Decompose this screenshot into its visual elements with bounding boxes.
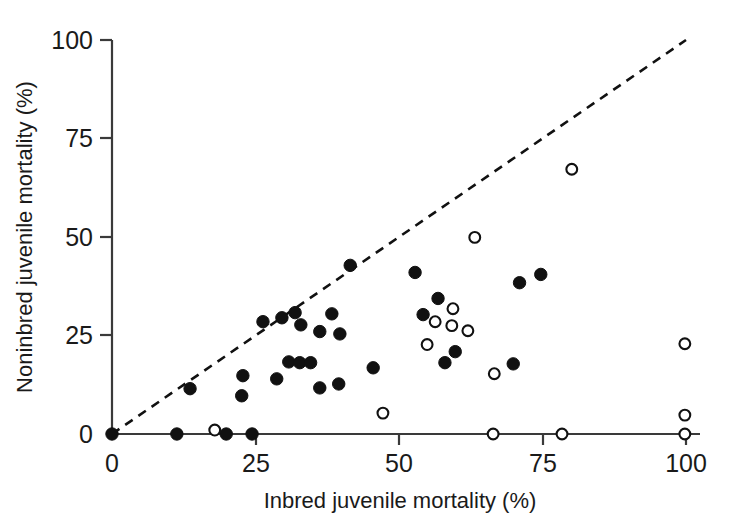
y-tick-label-50: 50	[65, 223, 93, 251]
data-point-open	[566, 164, 577, 175]
x-tick-label-75: 75	[529, 449, 557, 477]
data-point-open	[378, 408, 389, 419]
data-point-open	[469, 232, 480, 243]
data-point-filled	[304, 356, 316, 368]
series-open-circles	[209, 164, 690, 440]
data-point-filled	[513, 277, 525, 289]
data-point-open	[679, 429, 690, 440]
data-point-filled	[334, 328, 346, 340]
data-point-open	[446, 320, 457, 331]
data-point-open	[448, 303, 459, 314]
x-tick-marks	[256, 434, 686, 445]
data-point-filled	[184, 382, 196, 394]
data-point-filled	[257, 316, 269, 328]
data-point-filled	[507, 358, 519, 370]
data-point-filled	[367, 362, 379, 374]
data-point-filled	[314, 382, 326, 394]
y-tick-label-0: 0	[79, 420, 93, 448]
data-point-filled	[344, 259, 356, 271]
y-tick-labels: 100 75 50 25 0	[51, 26, 93, 448]
data-point-filled	[439, 356, 451, 368]
data-point-filled	[417, 308, 429, 320]
data-point-open	[209, 425, 220, 436]
data-point-open	[489, 368, 500, 379]
data-point-open	[462, 325, 473, 336]
data-point-filled	[449, 345, 461, 357]
data-point-filled	[276, 312, 288, 324]
y-tick-marks	[100, 40, 112, 335]
data-point-filled	[246, 428, 258, 440]
data-point-filled	[333, 378, 345, 390]
data-point-filled	[314, 325, 326, 337]
data-point-filled	[220, 428, 232, 440]
data-point-filled	[237, 369, 249, 381]
data-point-open	[430, 316, 441, 327]
data-point-filled	[289, 306, 301, 318]
x-tick-label-0: 0	[105, 449, 119, 477]
x-tick-label-50: 50	[385, 449, 413, 477]
data-point-open	[679, 410, 690, 421]
data-point-filled	[106, 428, 118, 440]
data-point-filled	[236, 390, 248, 402]
x-tick-label-100: 100	[665, 449, 707, 477]
x-tick-label-25: 25	[242, 449, 270, 477]
data-point-open	[679, 338, 690, 349]
x-tick-labels: 0 25 50 75 100	[105, 449, 707, 477]
data-point-open	[422, 339, 433, 350]
data-point-filled	[171, 428, 183, 440]
data-point-open	[488, 429, 499, 440]
data-point-filled	[535, 268, 547, 280]
data-point-filled	[326, 308, 338, 320]
axis-lines	[112, 40, 700, 434]
y-tick-label-75: 75	[65, 124, 93, 152]
data-point-filled	[409, 266, 421, 278]
data-point-filled	[295, 319, 307, 331]
y-axis-title: Noninbred juvenile mortality (%)	[12, 81, 37, 393]
y-tick-label-100: 100	[51, 26, 93, 54]
figure-panel: 100 75 50 25 0 0 25 50 75 100 Inbred juv…	[0, 0, 731, 524]
data-point-filled	[271, 373, 283, 385]
y-tick-label-25: 25	[65, 321, 93, 349]
data-point-open	[557, 429, 568, 440]
scatter-plot: 100 75 50 25 0 0 25 50 75 100 Inbred juv…	[0, 0, 731, 524]
one-to-one-reference-line	[112, 40, 686, 434]
x-axis-title: Inbred juvenile mortality (%)	[264, 488, 537, 513]
data-point-filled	[432, 292, 444, 304]
